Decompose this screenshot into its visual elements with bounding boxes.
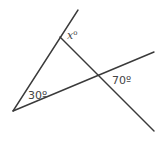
angle-30-label: 30º xyxy=(28,89,47,102)
angle-x-label: xo xyxy=(67,29,77,42)
transversal-line xyxy=(60,37,154,131)
angle-70-label: 70º xyxy=(112,74,131,87)
geometry-diagram: xo 30º 70º xyxy=(0,0,163,141)
